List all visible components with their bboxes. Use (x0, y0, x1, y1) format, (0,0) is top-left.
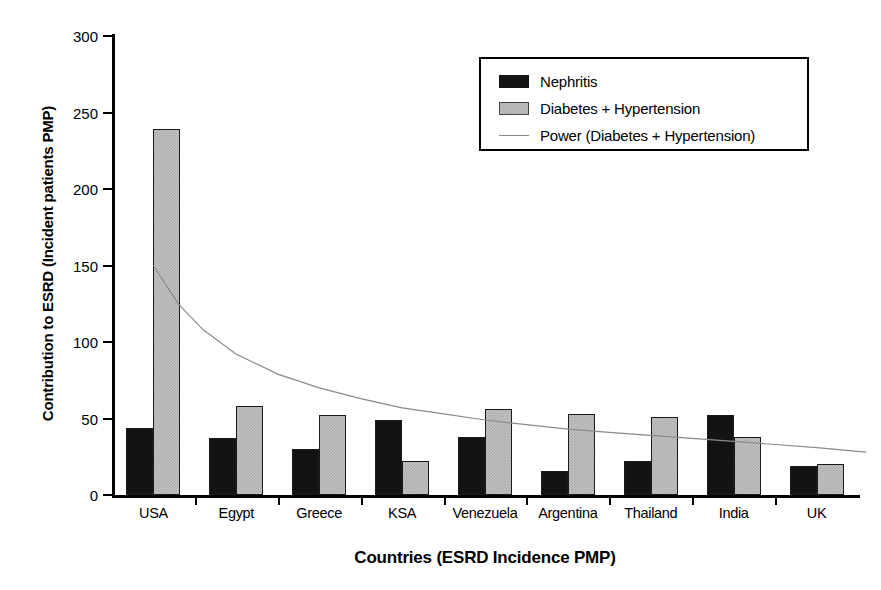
bar-india-nephritis (707, 415, 734, 495)
bar-egypt-nephritis (209, 438, 236, 495)
legend-label: Power (Diabetes + Hypertension) (540, 128, 755, 143)
chart-container: Contribution to ESRD (Incident patients … (0, 0, 881, 590)
x-axis-title: Countries (ESRD Incidence PMP) (112, 548, 858, 568)
x-tick (444, 498, 446, 505)
bar-usa-nephritis (126, 428, 153, 495)
bar-venezuela-nephritis (458, 437, 485, 495)
x-category-label-egypt: Egypt (195, 505, 278, 521)
x-tick (361, 498, 363, 505)
x-category-label-venezuela: Venezuela (444, 505, 527, 521)
bar-egypt-dm-htn (236, 406, 263, 495)
x-category-label-uk: UK (775, 505, 858, 521)
legend-label: Diabetes + Hypertension (540, 101, 700, 116)
bar-ksa-dm-htn (402, 461, 429, 495)
bar-thailand-dm-htn (651, 417, 678, 495)
x-category-label-ksa: KSA (361, 505, 444, 521)
y-tick-label: 50 (0, 411, 98, 428)
bar-greece-dm-htn (319, 415, 346, 495)
bar-thailand-nephritis (624, 461, 651, 495)
chart-legend: Nephritis Diabetes + Hypertension Power … (479, 57, 809, 151)
x-category-label-greece: Greece (278, 505, 361, 521)
x-category-label-argentina: Argentina (526, 505, 609, 521)
x-category-label-india: India (692, 505, 775, 521)
y-tick (103, 418, 112, 420)
x-tick (278, 498, 280, 505)
legend-item-nephritis: Nephritis (499, 68, 807, 95)
x-category-label-usa: USA (112, 505, 195, 521)
y-tick (103, 265, 112, 267)
bar-greece-nephritis (292, 449, 319, 495)
black-square-icon (499, 75, 529, 88)
x-tick (609, 498, 611, 505)
x-axis-line (112, 495, 860, 498)
y-axis-line (112, 34, 115, 497)
y-tick-label: 200 (0, 181, 98, 198)
y-tick-label: 0 (0, 487, 98, 504)
x-category-label-thailand: Thailand (609, 505, 692, 521)
bar-usa-dm-htn (153, 129, 180, 495)
bar-venezuela-dm-htn (485, 409, 512, 495)
y-tick-label: 250 (0, 105, 98, 122)
y-tick-label: 300 (0, 28, 98, 45)
x-tick (775, 498, 777, 505)
y-tick (103, 112, 112, 114)
bar-uk-nephritis (790, 466, 817, 495)
y-tick (103, 35, 112, 37)
y-tick (103, 341, 112, 343)
bar-india-dm-htn (734, 437, 761, 495)
y-tick-label: 150 (0, 258, 98, 275)
legend-item-power-trend: Power (Diabetes + Hypertension) (499, 122, 807, 149)
x-tick (195, 498, 197, 505)
gray-square-icon (499, 102, 529, 115)
bar-argentina-dm-htn (568, 414, 595, 495)
bar-uk-dm-htn (817, 464, 844, 495)
bar-ksa-nephritis (375, 420, 402, 495)
legend-item-diabetes-hypertension: Diabetes + Hypertension (499, 95, 807, 122)
y-tick (103, 494, 112, 496)
bar-argentina-nephritis (541, 471, 568, 495)
line-icon (499, 129, 529, 142)
y-tick-label: 100 (0, 334, 98, 351)
legend-label: Nephritis (540, 74, 597, 89)
x-tick (526, 498, 528, 505)
x-tick (692, 498, 694, 505)
y-tick (103, 188, 112, 190)
